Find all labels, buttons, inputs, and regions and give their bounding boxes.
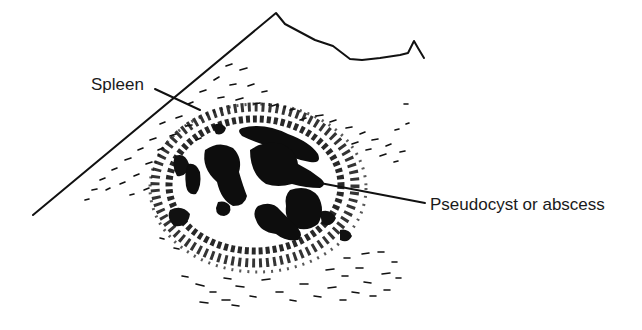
parenchyma-texture [85,64,409,306]
ultrasound-diagram [0,0,642,330]
spleen-label: Spleen [91,76,144,93]
lesion-cavities [185,126,324,240]
pseudocyst-abscess-label: Pseudocyst or abscess [430,196,605,213]
